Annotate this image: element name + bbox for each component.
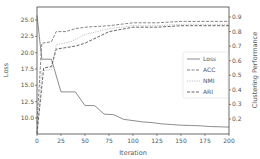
y-tick-label-right: 0.9 bbox=[232, 13, 242, 20]
x-tick-label: 50 bbox=[81, 137, 89, 144]
x-tick-label: 25 bbox=[57, 137, 65, 144]
chart: 0255075100125150175200 10.012.515.017.52… bbox=[0, 0, 260, 159]
y-tick-label-right: 0.3 bbox=[232, 100, 242, 107]
y-tick-label-left: 25.0 bbox=[21, 16, 35, 23]
x-tick-label: 175 bbox=[199, 137, 211, 144]
y-tick-label-left: 17.5 bbox=[21, 65, 35, 72]
y-tick-label-right: 0.2 bbox=[232, 115, 242, 122]
y-tick-label-right: 0.7 bbox=[232, 42, 242, 49]
x-tick-label: 0 bbox=[35, 137, 39, 144]
y-axis-ticks-right: 0.20.30.40.50.60.70.80.9 bbox=[229, 13, 242, 122]
y-tick-label-left: 20.0 bbox=[21, 49, 35, 56]
x-tick-label: 150 bbox=[175, 137, 187, 144]
y-axis-ticks-left: 10.012.515.017.520.022.525.0 bbox=[21, 16, 37, 121]
legend-label: Loss bbox=[203, 55, 216, 62]
y-tick-label-left: 15.0 bbox=[21, 81, 35, 88]
y-axis-label-right: Clustering Performance bbox=[251, 32, 259, 108]
x-tick-label: 100 bbox=[127, 137, 139, 144]
y-tick-label-right: 0.5 bbox=[232, 71, 242, 78]
x-tick-label: 75 bbox=[105, 137, 113, 144]
y-tick-label-left: 22.5 bbox=[21, 32, 35, 39]
legend-label: ACC bbox=[203, 66, 215, 73]
x-tick-label: 200 bbox=[223, 137, 235, 144]
legend-label: ARI bbox=[203, 88, 213, 95]
y-axis-label-left: Loss bbox=[2, 62, 10, 77]
y-tick-label-left: 12.5 bbox=[21, 98, 35, 105]
legend-label: NMI bbox=[203, 77, 215, 84]
x-axis-label: Iteration bbox=[119, 149, 147, 157]
y-tick-label-right: 0.6 bbox=[232, 57, 242, 64]
y-tick-label-left: 10.0 bbox=[21, 114, 35, 121]
x-axis-ticks: 0255075100125150175200 bbox=[35, 134, 235, 144]
x-tick-label: 125 bbox=[151, 137, 163, 144]
y-tick-label-right: 0.4 bbox=[232, 86, 242, 93]
legend: LossACCNMIARI bbox=[183, 52, 228, 98]
y-tick-label-right: 0.8 bbox=[232, 28, 242, 35]
